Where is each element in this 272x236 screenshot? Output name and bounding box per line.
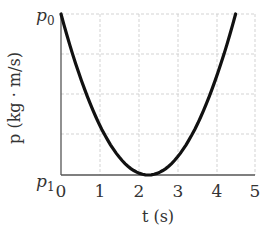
x-tick: 0 [56, 181, 67, 201]
axes [61, 14, 255, 175]
x-tick: 5 [250, 181, 261, 201]
grid [61, 14, 255, 175]
x-tick: 1 [95, 181, 106, 201]
y-axis-title: p (kg · m/s) [5, 52, 24, 144]
x-tick: 4 [212, 181, 223, 201]
momentum-time-chart: p0 p1 0 1 2 3 4 5 t (s) p (kg · m/s) [0, 0, 272, 236]
x-tick-labels: 0 1 2 3 4 5 [56, 181, 261, 201]
momentum-curve [61, 14, 236, 175]
x-axis-title: t (s) [142, 207, 174, 226]
y-tick-p1: p1 [36, 171, 55, 194]
y-tick-p0: p0 [36, 5, 55, 28]
x-tick: 3 [173, 181, 184, 201]
x-tick: 2 [134, 181, 145, 201]
